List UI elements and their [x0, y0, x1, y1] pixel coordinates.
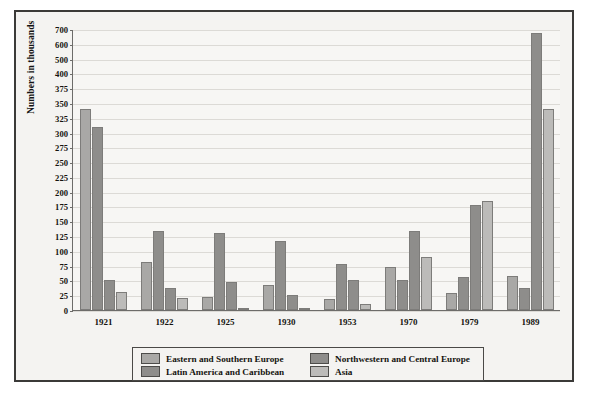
- bar-1925-series-3: [238, 308, 249, 310]
- y-axis-tick-label: 600: [55, 40, 68, 50]
- bar-group-1921: 1921: [73, 30, 134, 310]
- legend-label: Eastern and Southern Europe: [166, 354, 284, 364]
- x-axis-tick-label: 1921: [72, 317, 136, 327]
- y-axis-tick-label: 125: [55, 232, 68, 242]
- legend-label: Northwestern and Central Europe: [335, 354, 470, 364]
- legend-item-asia: Asia: [308, 366, 477, 377]
- y-axis-tick-label: 350: [55, 99, 68, 109]
- chart-area: Numbers in thousands 0255075100125150175…: [28, 18, 564, 334]
- chart-legend: Eastern and Southern Europe Northwestern…: [132, 347, 484, 381]
- legend-swatch-icon: [141, 366, 160, 377]
- legend-row: Latin America and Caribbean Asia: [139, 365, 477, 378]
- y-axis-tick-label: 325: [55, 114, 68, 124]
- y-axis-tick-label: 0: [64, 306, 68, 316]
- bar-1922-series-1: [153, 231, 164, 310]
- bar-1989-series-0: [507, 276, 518, 310]
- bar-1921-series-3: [116, 292, 127, 310]
- y-axis-tick-label: 275: [55, 143, 68, 153]
- legend-swatch-icon: [141, 353, 160, 364]
- legend-swatch-icon: [310, 366, 329, 377]
- y-axis-tick-label: 200: [55, 188, 68, 198]
- bar-1979-series-0: [446, 293, 457, 310]
- x-axis-tick-label: 1979: [438, 317, 502, 327]
- bar-1989-series-3: [543, 109, 554, 310]
- bar-1922-series-3: [177, 298, 188, 310]
- y-axis-tick-label: 375: [55, 84, 68, 94]
- y-axis-tick-label: 100: [55, 247, 68, 257]
- bar-group-1922: 1922: [134, 30, 195, 310]
- bar-1953-series-1: [336, 264, 347, 310]
- bar-1979-series-1: [458, 277, 469, 310]
- y-axis-tick-label: 700: [55, 25, 68, 35]
- y-axis-tick-label: 150: [55, 217, 68, 227]
- bar-1970-series-2: [409, 231, 420, 310]
- y-axis-tick-mark: [70, 311, 73, 312]
- bar-1921-series-2: [104, 280, 115, 310]
- bar-1953-series-2: [348, 280, 359, 310]
- plot-area: 0255075100125150175200225250275300325350…: [72, 30, 560, 311]
- bar-1953-series-0: [324, 299, 335, 310]
- bar-1922-series-2: [165, 288, 176, 310]
- x-axis-tick-label: 1953: [316, 317, 380, 327]
- bar-1970-series-0: [385, 267, 396, 310]
- x-axis-tick-label: 1925: [194, 317, 258, 327]
- y-axis-tick-label: 500: [55, 55, 68, 65]
- bar-1970-series-1: [397, 280, 408, 310]
- legend-item-northwestern-central-europe: Northwestern and Central Europe: [308, 353, 477, 364]
- x-axis-tick-label: 1970: [377, 317, 441, 327]
- bar-1989-series-2: [531, 33, 542, 310]
- y-axis-title: Numbers in thousands: [26, 96, 36, 114]
- legend-swatch-icon: [310, 353, 329, 364]
- y-axis-tick-label: 50: [59, 276, 68, 286]
- bar-1921-series-1: [92, 127, 103, 310]
- bar-group-1989: 1989: [500, 30, 561, 310]
- bar-1930-series-2: [287, 295, 298, 310]
- bar-group-1970: 1970: [378, 30, 439, 310]
- bar-1930-series-1: [275, 241, 286, 310]
- bar-1979-series-2: [470, 205, 481, 310]
- y-axis-tick-label: 225: [55, 173, 68, 183]
- bar-1930-series-0: [263, 285, 274, 310]
- bar-1953-series-3: [360, 304, 371, 310]
- legend-row: Eastern and Southern Europe Northwestern…: [139, 352, 477, 365]
- bar-1979-series-3: [482, 201, 493, 310]
- legend-label: Latin America and Caribbean: [166, 367, 284, 377]
- y-axis-tick-label: 400: [55, 69, 68, 79]
- bar-group-1925: 1925: [195, 30, 256, 310]
- bar-1925-series-1: [214, 233, 225, 310]
- y-axis-tick-label: 75: [59, 262, 68, 272]
- y-axis-tick-label: 300: [55, 129, 68, 139]
- legend-label: Asia: [335, 367, 352, 377]
- bar-group-1930: 1930: [256, 30, 317, 310]
- bar-group-1953: 1953: [317, 30, 378, 310]
- bar-1921-series-0: [80, 109, 91, 310]
- bar-1930-series-3: [299, 308, 310, 310]
- chart-frame: Numbers in thousands 0255075100125150175…: [14, 10, 574, 382]
- y-axis-tick-label: 25: [59, 291, 68, 301]
- bar-1922-series-0: [141, 262, 152, 311]
- gridline: [73, 311, 560, 312]
- bar-group-1979: 1979: [439, 30, 500, 310]
- y-axis-tick-label: 250: [55, 158, 68, 168]
- legend-item-eastern-southern-europe: Eastern and Southern Europe: [139, 353, 308, 364]
- x-axis-tick-label: 1989: [499, 317, 563, 327]
- x-axis-tick-label: 1930: [255, 317, 319, 327]
- x-axis-tick-label: 1922: [133, 317, 197, 327]
- bar-1925-series-0: [202, 297, 213, 310]
- legend-item-latin-america-caribbean: Latin America and Caribbean: [139, 366, 308, 377]
- bar-1970-series-3: [421, 257, 432, 310]
- bar-1925-series-2: [226, 282, 237, 310]
- y-axis-tick-label: 175: [55, 202, 68, 212]
- bar-1989-series-1: [519, 288, 530, 310]
